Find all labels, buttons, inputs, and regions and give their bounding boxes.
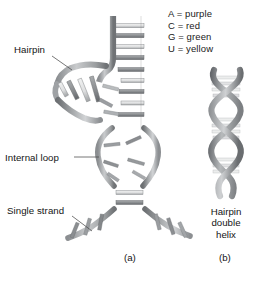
lower-stem <box>115 184 144 210</box>
rna-structure-figure <box>0 0 272 285</box>
panel-b-double-helix <box>211 70 241 196</box>
helix-caption-line-2: double <box>193 217 259 228</box>
helix-caption-line-3: helix <box>193 229 259 240</box>
legend-entry-g: G = green <box>168 31 213 43</box>
panel-label-b: (b) <box>219 252 231 263</box>
label-hairpin: Hairpin <box>14 44 45 55</box>
helix-caption-line-1: Hairpin <box>193 206 259 217</box>
internal-loop-unpaired-bases <box>103 136 145 182</box>
hairpin-base-pairs <box>58 76 101 102</box>
hairpin-junction-bases <box>99 84 119 116</box>
panel-label-a: (a) <box>124 252 136 263</box>
legend-entry-a: A = purple <box>168 8 213 20</box>
hairpin-branch <box>55 64 119 120</box>
label-single-strand: Single strand <box>7 205 64 216</box>
label-hairpin-double-helix: Hairpin double helix <box>193 206 259 240</box>
legend-entry-u: U = yellow <box>168 43 213 55</box>
internal-loop <box>98 128 158 186</box>
base-color-key: A = purple C = red G = green U = yellow <box>168 8 213 54</box>
single-strands <box>68 209 190 238</box>
label-internal-loop: Internal loop <box>5 152 59 163</box>
legend-entry-c: C = red <box>168 20 213 32</box>
